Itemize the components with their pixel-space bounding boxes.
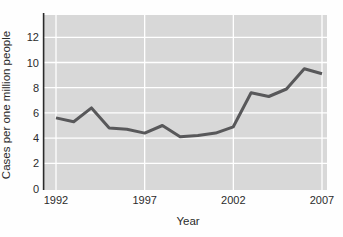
y-tick-label: 0 bbox=[33, 183, 39, 195]
y-tick-label: 8 bbox=[33, 82, 39, 94]
chart-figure: 0246810121992199720022007 Year Cases per… bbox=[0, 0, 343, 237]
line-chart: 0246810121992199720022007 Year Cases per… bbox=[0, 0, 343, 237]
y-tick-label: 4 bbox=[33, 132, 39, 144]
y-tick-label: 10 bbox=[27, 57, 39, 69]
y-tick-label: 2 bbox=[33, 157, 39, 169]
plot-area: 0246810121992199720022007 bbox=[27, 13, 334, 206]
y-tick-label: 12 bbox=[27, 31, 39, 43]
y-axis-title: Cases per one million people bbox=[0, 31, 12, 179]
y-tick-label: 6 bbox=[33, 107, 39, 119]
x-axis-title: Year bbox=[176, 215, 199, 227]
x-tick-label: 1992 bbox=[44, 194, 68, 206]
x-tick-label: 2002 bbox=[221, 194, 245, 206]
x-tick-label: 1997 bbox=[132, 194, 156, 206]
x-tick-label: 2007 bbox=[310, 194, 334, 206]
